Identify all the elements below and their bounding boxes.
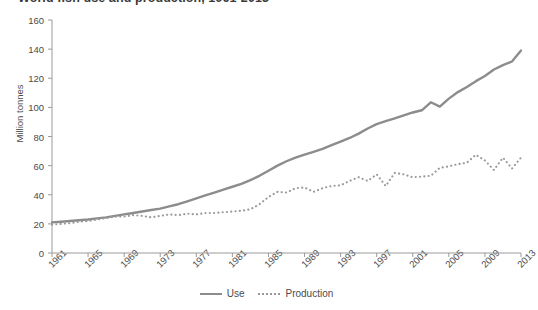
dotted-line-icon <box>258 293 280 295</box>
legend-label-production: Production <box>285 288 333 299</box>
series-line-use <box>52 51 521 223</box>
legend-item-use[interactable]: Use <box>200 288 245 299</box>
chart-legend: Use Production <box>0 288 533 299</box>
legend-label-use: Use <box>227 288 245 299</box>
solid-line-icon <box>200 293 222 295</box>
data-series <box>52 51 521 225</box>
axis-lines <box>48 20 521 257</box>
legend-item-production[interactable]: Production <box>258 288 333 299</box>
